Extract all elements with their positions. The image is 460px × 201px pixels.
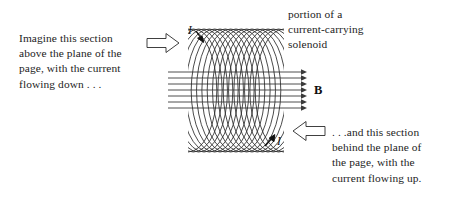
caption-bottom-right: . . .and this section behind the plane o… <box>332 125 422 186</box>
field-arrowhead <box>301 105 307 111</box>
field-line-arrowhead-group <box>301 69 307 111</box>
field-arrowhead <box>301 87 307 93</box>
field-arrowhead <box>301 99 307 105</box>
coil-turn <box>170 29 228 152</box>
coil-turn <box>218 29 276 152</box>
left-block-arrow <box>147 34 179 53</box>
coil-turn <box>207 29 265 152</box>
coil-turn <box>202 29 260 152</box>
field-arrowhead <box>301 81 307 87</box>
caption-left: Imagine this section above the plane of … <box>19 31 122 92</box>
coil-turn <box>175 29 233 152</box>
right-block-arrow-shape <box>293 122 325 141</box>
coil-turn <box>186 29 244 152</box>
coil-turn <box>197 29 255 152</box>
solenoid-figure: I I B Imagine this section above the pla… <box>0 0 460 201</box>
left-block-arrow-shape <box>147 34 179 53</box>
field-arrowhead <box>301 93 307 99</box>
field-arrowhead <box>301 69 307 75</box>
top-current-arrowhead <box>198 36 204 42</box>
right-block-arrow <box>293 122 325 141</box>
field-label-b: B <box>314 83 322 97</box>
coil-turn <box>181 29 239 152</box>
coil-turn <box>229 29 287 152</box>
coil-turn <box>223 29 281 152</box>
coil-turn <box>191 29 249 152</box>
coil-turn <box>234 29 292 152</box>
coil-turn <box>213 29 271 152</box>
caption-top-right: portion of a current-carrying solenoid <box>288 7 364 53</box>
field-arrowhead <box>301 75 307 81</box>
